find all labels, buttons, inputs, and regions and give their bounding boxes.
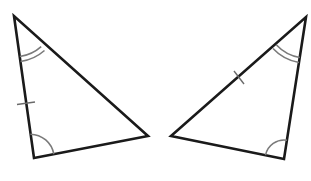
left-triangle-outline bbox=[14, 16, 148, 158]
right-top-angle-double-arc-outer bbox=[273, 49, 299, 63]
left-triangle bbox=[14, 16, 148, 158]
right-triangle bbox=[171, 17, 306, 159]
right-triangle-outline bbox=[171, 17, 306, 159]
congruent-triangles-diagram bbox=[0, 0, 311, 181]
